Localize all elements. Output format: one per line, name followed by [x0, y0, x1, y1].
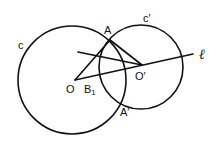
circle-c [18, 26, 126, 134]
point-label: A′ [120, 106, 129, 118]
geometry-diagram: cc′AA′OO′B1ℓ [0, 0, 221, 146]
point-label: O [66, 83, 75, 95]
circle-c-prime [99, 25, 183, 109]
circles-group [18, 25, 183, 134]
point-label: B1 [84, 83, 96, 97]
point-label: A [104, 24, 112, 36]
circle-label: c [18, 39, 24, 51]
point-label: O′ [135, 70, 146, 82]
line-l-label: ℓ [199, 47, 205, 62]
circle-label: c′ [143, 12, 151, 24]
labels-group: cc′AA′OO′B1ℓ [18, 12, 205, 118]
segments-group [75, 40, 193, 80]
